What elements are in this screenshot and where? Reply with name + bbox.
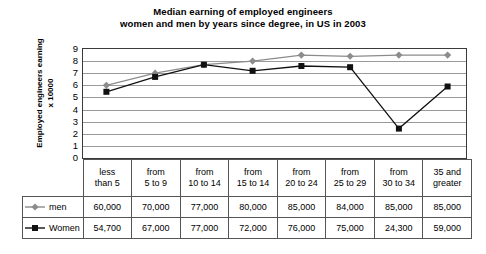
table-row: men60,00070,00077,00080,00085,00084,0008… [23, 197, 472, 218]
column-header-line: greater [423, 178, 471, 189]
table-cell-value: 59,000 [423, 218, 472, 239]
data-point-women [396, 126, 402, 132]
legend-label: men [49, 202, 67, 213]
data-point-women [152, 74, 158, 80]
y-tick-label: 8 [64, 56, 78, 66]
table-cell-value: 76,000 [277, 218, 326, 239]
column-header: 35 andgreater [423, 160, 472, 197]
y-axis-label-line2: x 10000 [45, 28, 56, 158]
plot-area [82, 48, 467, 159]
legend-label: Women [49, 223, 80, 234]
data-point-women [103, 89, 109, 95]
chart-screenshot: Median earning of employed engineers wom… [0, 0, 486, 254]
series-layer [83, 49, 466, 158]
chart-title: Median earning of employed engineers wom… [0, 6, 486, 30]
data-point-women [347, 64, 353, 70]
column-header-line: from [181, 167, 229, 178]
y-axis-label: Employed engineers earning x 10000 [8, 36, 70, 166]
table-cell-value: 77,000 [180, 197, 229, 218]
y-tick-label: 9 [64, 44, 78, 54]
data-point-men [298, 51, 305, 58]
column-header: lessthan 5 [83, 160, 132, 197]
data-point-women [298, 63, 304, 69]
legend-marker-square-icon [24, 223, 46, 233]
column-header-line: less [84, 167, 132, 178]
column-header: from5 to 9 [132, 160, 181, 197]
data-table: lessthan 5from5 to 9from10 to 14from15 t… [22, 159, 472, 239]
column-header-line: 15 to 14 [229, 178, 277, 189]
column-header-line: from [326, 167, 374, 178]
table-cell-value: 84,000 [326, 197, 375, 218]
table-header-row: lessthan 5from5 to 9from10 to 14from15 t… [23, 160, 472, 197]
column-header-line: from [375, 167, 423, 178]
y-tick-label: 5 [64, 92, 78, 102]
table-cell-value: 77,000 [180, 218, 229, 239]
table-cell-value: 75,000 [326, 218, 375, 239]
column-header-line: from [278, 167, 326, 178]
table-cell-value: 24,300 [374, 218, 423, 239]
column-header-line: 30 to 34 [375, 178, 423, 189]
column-header-line: 35 and [423, 167, 471, 178]
table-cell-value: 60,000 [83, 197, 132, 218]
column-header-line: 5 to 9 [132, 178, 180, 189]
y-tick-label: 7 [64, 68, 78, 78]
data-point-men [444, 51, 451, 58]
table-cell-value: 67,000 [132, 218, 181, 239]
table-cell-value: 80,000 [229, 197, 278, 218]
data-point-men [395, 51, 402, 58]
column-header-line: 25 to 29 [326, 178, 374, 189]
data-point-men [347, 53, 354, 60]
table-cell-value: 85,000 [374, 197, 423, 218]
y-tick-label: 1 [64, 141, 78, 151]
series-line-men [106, 55, 447, 85]
column-header: from15 to 14 [229, 160, 278, 197]
y-axis-label-line1: Employed engineers earning [34, 28, 45, 158]
legend-entry-men[interactable]: men [23, 197, 84, 218]
table-cell-value: 54,700 [83, 218, 132, 239]
column-header-line: than 5 [84, 178, 132, 189]
chart-title-line1: Median earning of employed engineers [153, 6, 332, 17]
table-cell-value: 72,000 [229, 218, 278, 239]
data-point-men [103, 82, 110, 89]
legend-marker-diamond-icon [24, 202, 46, 212]
data-table-wrapper: lessthan 5from5 to 9from10 to 14from15 t… [22, 159, 472, 238]
y-tick-label: 2 [64, 129, 78, 139]
column-header-line: from [132, 167, 180, 178]
column-header-line: from [229, 167, 277, 178]
column-header: from30 to 34 [374, 160, 423, 197]
table-cell-value: 85,000 [423, 197, 472, 218]
column-header-line: 10 to 14 [181, 178, 229, 189]
table-row: Women54,70067,00077,00072,00076,00075,00… [23, 218, 472, 239]
data-point-women [445, 84, 451, 90]
y-tick-label: 4 [64, 105, 78, 115]
legend-entry-women[interactable]: Women [23, 218, 84, 239]
column-header: from10 to 14 [180, 160, 229, 197]
y-tick-label: 6 [64, 80, 78, 90]
chart-title-line2: women and men by years since degree, in … [0, 18, 486, 30]
table-cell-value: 70,000 [132, 197, 181, 218]
table-cell-value: 85,000 [277, 197, 326, 218]
column-header: from20 to 24 [277, 160, 326, 197]
y-tick-label: 3 [64, 117, 78, 127]
data-point-women [201, 62, 207, 68]
table-corner-cell [23, 160, 84, 197]
data-point-women [250, 68, 256, 74]
column-header: from25 to 29 [326, 160, 375, 197]
data-point-men [249, 58, 256, 65]
column-header-line: 20 to 24 [278, 178, 326, 189]
